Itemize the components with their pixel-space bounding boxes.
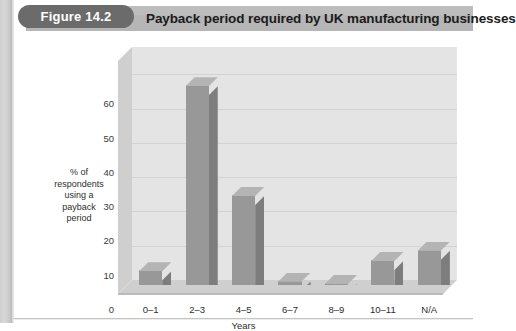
page-edge-strip (0, 0, 13, 323)
figure-title: Payback period required by UK manufactur… (146, 6, 516, 31)
bar-front-face (371, 260, 394, 285)
plot-area (118, 47, 463, 299)
bar (278, 282, 301, 285)
bar-side-face (255, 196, 264, 285)
plot-left-wall (118, 47, 132, 294)
y-axis-tick-column: 0102030405060 (74, 47, 114, 299)
plot-floor-front-edge (118, 293, 443, 295)
y-axis-tick-label: 30 (103, 201, 114, 212)
y-axis-tick-label: 10 (103, 269, 114, 280)
x-axis-tick-label: 2–3 (189, 304, 205, 315)
bar-front-face (232, 195, 255, 285)
gridline (132, 177, 457, 178)
gridline (132, 246, 457, 247)
figure-number-badge: Figure 14.2 (18, 5, 134, 28)
figure-number-label: Figure 14.2 (41, 9, 112, 24)
bar-side-face (209, 86, 218, 285)
x-axis-tick-label: 0–1 (143, 304, 159, 315)
y-axis-tick-label: 60 (103, 98, 114, 109)
y-axis-tick-label: 50 (103, 132, 114, 143)
x-axis-tick-label: 8–9 (328, 304, 344, 315)
bar (186, 86, 209, 285)
gridline (132, 74, 457, 75)
x-axis-tick-label: N/A (421, 304, 437, 315)
x-axis-title: Years (14, 320, 473, 331)
bar-front-face (139, 270, 162, 285)
x-axis-tick-label: 4–5 (236, 304, 252, 315)
x-axis-tick-label: 6–7 (282, 304, 298, 315)
y-axis-tick-label: 20 (103, 235, 114, 246)
bar (418, 251, 441, 285)
gridline (132, 211, 457, 212)
bar-front-face (186, 85, 209, 285)
gridline (132, 109, 457, 110)
bar (232, 196, 255, 285)
y-axis-tick-label: 0 (109, 304, 114, 315)
bar (325, 284, 348, 285)
x-axis-tick-label: 10–11 (370, 304, 396, 315)
y-axis-tick-label: 40 (103, 166, 114, 177)
chart-area: % ofrespondentsusing apaybackperiod 0102… (14, 32, 473, 317)
bar (371, 261, 394, 285)
bar-front-face (418, 250, 441, 285)
gridline (132, 143, 457, 144)
bar (139, 271, 162, 285)
